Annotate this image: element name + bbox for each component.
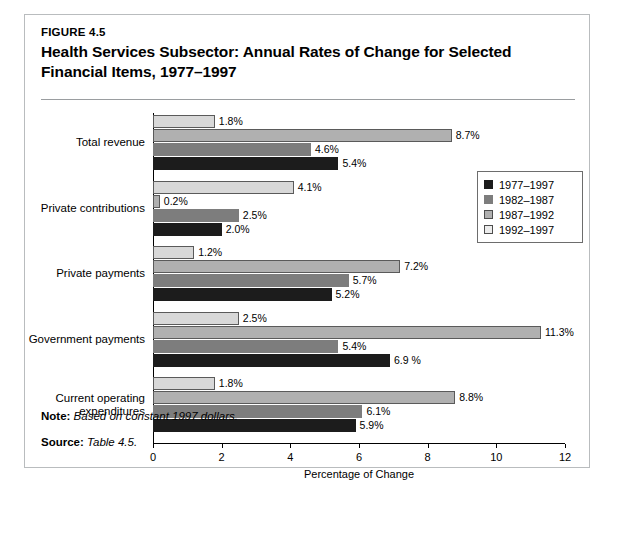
bar-value-label: 11.3% bbox=[545, 326, 574, 339]
category-label-line: Private payments bbox=[23, 267, 145, 281]
bar bbox=[153, 143, 311, 156]
bar-value-label: 2.5% bbox=[243, 312, 267, 325]
bar-value-label: 6.9 % bbox=[394, 354, 421, 367]
category-label: Total revenue bbox=[23, 136, 145, 150]
category-label-line: Current operating bbox=[23, 392, 145, 406]
legend-item: 1992–1997 bbox=[484, 222, 575, 237]
legend-item-label: 1977–1997 bbox=[499, 179, 554, 191]
category-label-line: Private contributions bbox=[23, 202, 145, 216]
figure-container: FIGURE 4.5 Health Services Subsector: An… bbox=[24, 14, 590, 468]
chart-legend: 1977–19971982–19871987–19921992–1997 bbox=[477, 171, 583, 243]
bar bbox=[153, 260, 400, 273]
bar-value-label: 0.2% bbox=[164, 195, 188, 208]
bar bbox=[153, 129, 452, 142]
figure-footer: Note: Based on constant 1997 dollars. So… bbox=[41, 409, 575, 461]
figure-title-line-2: Financial Items, 1977–1997 bbox=[41, 63, 237, 80]
figure-title: Health Services Subsector: Annual Rates … bbox=[41, 42, 573, 81]
note-text: Based on constant 1997 dollars. bbox=[74, 410, 238, 422]
bar bbox=[153, 312, 239, 325]
bar bbox=[153, 391, 455, 404]
bar bbox=[153, 274, 349, 287]
bar bbox=[153, 157, 338, 170]
source-label: Source: bbox=[41, 436, 84, 448]
bar-value-label: 8.8% bbox=[459, 391, 483, 404]
legend-item: 1977–1997 bbox=[484, 177, 575, 192]
bar-value-label: 1.2% bbox=[198, 246, 222, 259]
note-line: Note: Based on constant 1997 dollars. bbox=[41, 409, 575, 423]
legend-swatch-icon bbox=[484, 225, 493, 234]
bar bbox=[153, 181, 294, 194]
bar bbox=[153, 195, 160, 208]
figure-title-line-1: Health Services Subsector: Annual Rates … bbox=[41, 43, 511, 60]
bar-value-label: 5.2% bbox=[336, 288, 360, 301]
category-label: Government payments bbox=[23, 333, 145, 347]
bar bbox=[153, 288, 332, 301]
title-divider bbox=[41, 99, 575, 100]
legend-item: 1987–1992 bbox=[484, 207, 575, 222]
bar bbox=[153, 354, 390, 367]
bar-value-label: 2.5% bbox=[243, 209, 267, 222]
bar-value-label: 8.7% bbox=[456, 129, 480, 142]
note-label: Note: bbox=[41, 410, 70, 422]
bar-value-label: 5.4% bbox=[342, 340, 366, 353]
bar-value-label: 1.8% bbox=[219, 115, 243, 128]
bar-value-label: 1.8% bbox=[219, 377, 243, 390]
category-label-line: Government payments bbox=[23, 333, 145, 347]
bar-value-label: 4.6% bbox=[315, 143, 339, 156]
bar bbox=[153, 246, 194, 259]
figure-title-block: FIGURE 4.5 Health Services Subsector: An… bbox=[25, 15, 589, 81]
legend-item-label: 1982–1987 bbox=[499, 194, 554, 206]
category-label: Private contributions bbox=[23, 202, 145, 216]
source-text: Table 4.5. bbox=[87, 436, 137, 448]
bar bbox=[153, 326, 541, 339]
legend-swatch-icon bbox=[484, 180, 493, 189]
bar-value-label: 5.7% bbox=[353, 274, 377, 287]
category-label-line: Total revenue bbox=[23, 136, 145, 150]
source-line: Source: Table 4.5. bbox=[41, 435, 575, 449]
bar bbox=[153, 377, 215, 390]
legend-item: 1982–1987 bbox=[484, 192, 575, 207]
bar bbox=[153, 223, 222, 236]
legend-item-label: 1992–1997 bbox=[499, 224, 554, 236]
bar bbox=[153, 115, 215, 128]
figure-number: FIGURE 4.5 bbox=[41, 25, 573, 40]
bar-value-label: 2.0% bbox=[226, 223, 250, 236]
bar-value-label: 4.1% bbox=[298, 181, 322, 194]
bar bbox=[153, 340, 338, 353]
legend-swatch-icon bbox=[484, 210, 493, 219]
bar-chart-plot: 024681012 Total revenuePrivate contribut… bbox=[25, 105, 591, 395]
bar-value-label: 5.4% bbox=[342, 157, 366, 170]
legend-swatch-icon bbox=[484, 195, 493, 204]
bar-value-label: 7.2% bbox=[404, 260, 428, 273]
legend-item-label: 1987–1992 bbox=[499, 209, 554, 221]
bar bbox=[153, 209, 239, 222]
category-label: Private payments bbox=[23, 267, 145, 281]
x-axis-title: Percentage of Change bbox=[153, 468, 565, 480]
